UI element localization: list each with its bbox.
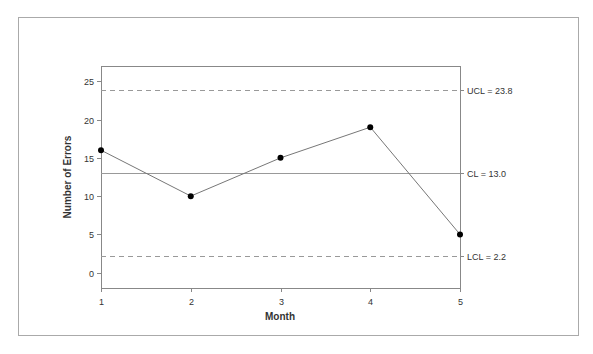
data-point-marker — [188, 193, 194, 199]
y-tick-label: 25 — [84, 77, 94, 87]
data-point-marker — [98, 147, 104, 153]
y-tick-label: 20 — [84, 116, 94, 126]
lcl-label: LCL = 2.2 — [467, 252, 506, 262]
x-tick-label: 3 — [279, 297, 284, 307]
y-tick-label: 10 — [84, 192, 94, 202]
y-tick-label: 15 — [84, 154, 94, 164]
data-point-marker — [278, 155, 284, 161]
cl-label: CL = 13.0 — [467, 169, 506, 179]
x-axis-title: Month — [265, 311, 295, 322]
y-tick-label: 0 — [89, 269, 94, 279]
data-point-marker — [367, 124, 373, 130]
x-tick-label: 5 — [458, 297, 463, 307]
x-tick-label: 1 — [99, 297, 104, 307]
ucl-label: UCL = 23.8 — [467, 86, 512, 96]
data-point-marker — [457, 231, 463, 237]
x-tick-label: 4 — [368, 297, 373, 307]
control-chart: 051015202512345UCL = 23.8CL = 13.0LCL = … — [0, 0, 593, 354]
y-tick-label: 5 — [89, 230, 94, 240]
y-axis-title: Number of Errors — [62, 135, 73, 218]
x-tick-label: 2 — [189, 297, 194, 307]
